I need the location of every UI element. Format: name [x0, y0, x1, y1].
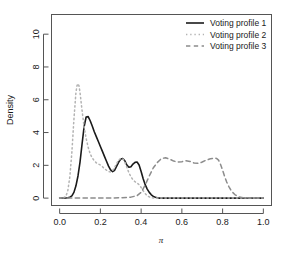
x-tick-label: 0.4 — [135, 217, 148, 227]
x-tick-label: 1.0 — [257, 217, 270, 227]
y-tick-label: 4 — [31, 130, 41, 135]
x-tick-label: 0.0 — [53, 217, 66, 227]
x-tick-label: 0.8 — [216, 217, 229, 227]
x-tick-label: 0.6 — [176, 217, 189, 227]
legend-label-2: Voting profile 2 — [210, 30, 267, 40]
legend-label-1: Voting profile 1 — [210, 18, 267, 28]
y-axis-title: Density — [5, 94, 15, 125]
y-tick-label: 6 — [31, 97, 41, 102]
y-tick-label: 8 — [31, 64, 41, 69]
y-tick-label: 0 — [31, 196, 41, 201]
x-tick-label: 0.2 — [94, 217, 107, 227]
chart-canvas: 0246810 0.00.20.40.60.81.0 Density π Vot… — [0, 0, 281, 259]
y-tick-label: 2 — [31, 163, 41, 168]
x-axis-title: π — [159, 235, 164, 245]
density-plot-figure: 0246810 0.00.20.40.60.81.0 Density π Vot… — [0, 0, 281, 259]
y-tick-label: 10 — [31, 29, 41, 39]
legend-label-3: Voting profile 3 — [210, 41, 267, 51]
